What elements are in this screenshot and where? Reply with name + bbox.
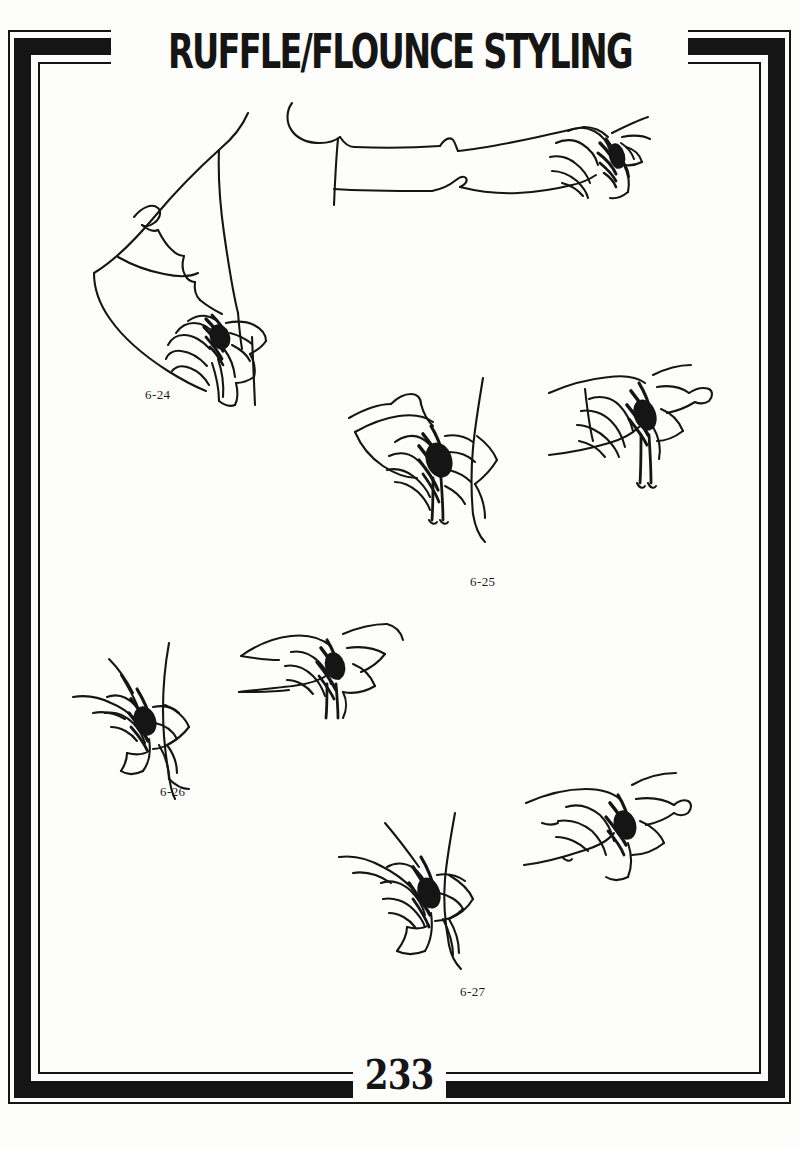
figure-upper-right-drawing [545,359,715,499]
figure-mid-center [235,604,425,724]
figure-extended-arm-drawing [280,99,660,229]
figure-mid-center-drawing [235,604,425,724]
figure-caption-6-25: 6-25 [470,574,495,590]
figure-lower-right-drawing [520,769,700,899]
figure-lower-right [520,769,700,899]
figure-6-24-drawing [80,109,300,419]
figure-upper-right [545,359,715,499]
figure-caption-6-27: 6-27 [460,984,485,1000]
illustration-plate: 6-24 [40,64,759,1072]
figure-caption-6-24: 6-24 [145,387,170,403]
figure-6-27-drawing [335,809,515,974]
figure-extended-arm [280,99,660,229]
figure-6-26-drawing [65,639,225,804]
figure-6-26: 6-26 [65,639,225,804]
figure-6-25: 6-25 [345,374,530,539]
book-page: RUFFLE/FLOUNCE STYLING [0,0,799,1150]
figure-6-27: 6-27 [335,809,515,974]
figure-caption-6-26: 6-26 [160,784,185,800]
figure-6-25-drawing [345,374,530,539]
figure-6-24: 6-24 [80,109,300,419]
